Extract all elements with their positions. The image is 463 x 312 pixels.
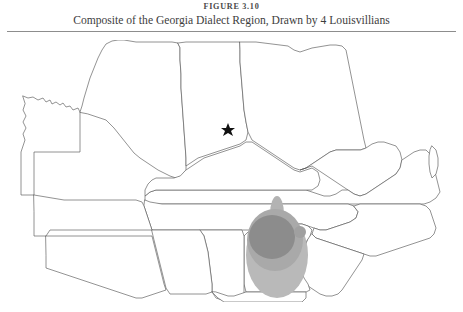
- state-missouri: [21, 96, 80, 195]
- map-canvas: [0, 40, 463, 302]
- figure-number-label: FIGURE 3.10: [0, 2, 463, 11]
- figure-caption: Composite of the Georgia Dialect Region,…: [0, 14, 463, 27]
- figure-container: FIGURE 3.10 Composite of the Georgia Dia…: [0, 0, 463, 312]
- state-illinois: [80, 40, 186, 178]
- caption-divider-rule: [7, 31, 456, 32]
- dialect-region-satellite-blob: [294, 226, 306, 238]
- state-outlines: [21, 40, 440, 302]
- state-virginia-eastern-shore: [429, 146, 438, 178]
- state-arkansas: [34, 195, 152, 236]
- us-southeast-map: [0, 40, 463, 302]
- dialect-region-inner-blob: [249, 215, 295, 259]
- state-louisiana: [46, 236, 166, 298]
